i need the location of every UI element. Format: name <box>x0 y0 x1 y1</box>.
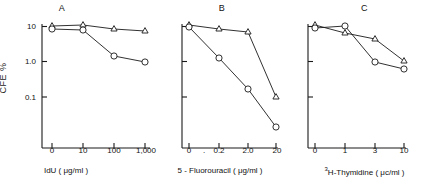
panel-b-triangle-markers <box>186 22 279 99</box>
panel-a-x-tick-0: 0 <box>37 146 67 155</box>
panel-c-plot <box>288 0 429 160</box>
panel-b-plot <box>150 0 290 160</box>
panel-c-x-tick-1: 1 <box>330 146 360 155</box>
panel-a-y-ticks <box>42 27 47 98</box>
panel-b-y-ticks <box>182 27 187 98</box>
panel-b-x-axis-title: 5 - Fluorouracil ( μg/ml ) <box>150 166 290 175</box>
panel-c: C <box>288 0 429 188</box>
panel-c-circle-markers <box>312 23 407 72</box>
panel-c-x-axis-title-text: H-Thymidine ( μc/ml ) <box>328 168 405 177</box>
panel-a-triangle-line <box>52 25 145 31</box>
panel-c-x-axis-title: 3H-Thymidine ( μc/ml ) <box>294 166 429 177</box>
panel-a-x-tick-10: 10 <box>68 146 98 155</box>
panel-b-x-tick-0.2: 0.2 <box>204 146 234 155</box>
panel-a-x-axis-title: IdU ( μg/ml ) <box>0 166 146 175</box>
panel-a-x-tick-100: 100 <box>99 146 129 155</box>
panel-b-circle-markers <box>186 24 279 130</box>
panel-a-circle-line <box>52 29 145 62</box>
panel-c-x-tick-10: 10 <box>389 146 419 155</box>
panel-b: B <box>150 0 290 188</box>
panel-c-x-tick-0: 0 <box>300 146 330 155</box>
panel-c-y-ticks <box>308 27 313 98</box>
panel-a: A CFE % 10 1.0 0.1 <box>0 0 160 188</box>
figure-canvas: A CFE % 10 1.0 0.1 <box>0 0 429 188</box>
panel-c-circle-line <box>315 26 404 69</box>
panel-b-triangle-line <box>189 25 276 97</box>
panel-c-x-tick-3: 3 <box>360 146 390 155</box>
panel-b-circle-line <box>189 27 276 127</box>
panel-a-plot <box>0 0 160 160</box>
panel-a-circle-markers <box>49 26 148 65</box>
panel-b-x-tick-2.0: 2.0 <box>233 146 263 155</box>
